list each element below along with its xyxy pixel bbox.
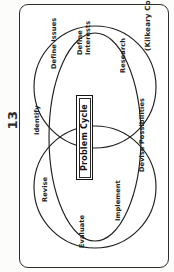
problem-cycle-box-inner: Problem Cycle (79, 98, 91, 178)
figure-frame: Problem Cycle Define Issues Define Inter… (19, 4, 169, 268)
label-implement: Implement (115, 180, 123, 221)
problem-cycle-box: Problem Cycle (76, 95, 93, 180)
label-revise: Revise (42, 177, 50, 202)
label-evaluate: Evaluate (79, 215, 87, 248)
label-define-interests: Define Interests (77, 11, 92, 55)
label-define-issues: Define Issues (51, 18, 59, 69)
scanned-page: 13 Problem Cycle Define Issues Define In… (0, 0, 174, 272)
problem-cycle-label: Problem Cycle (80, 104, 89, 171)
label-research: Research (120, 38, 128, 73)
figure-citation: (Kilkeary Communications, 1991) (141, 0, 155, 51)
label-devise-possibilities: Devise Possibilities (139, 98, 147, 172)
label-identify: Identify (34, 105, 42, 135)
